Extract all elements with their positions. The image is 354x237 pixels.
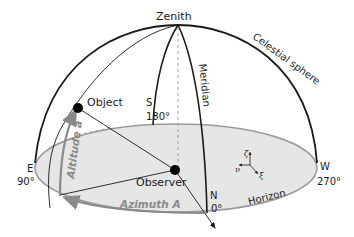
meridian-label: Meridian bbox=[197, 63, 212, 107]
diagram-canvas: ζ υ ξ Zenith Celestial sphere Meridian O… bbox=[0, 0, 354, 237]
observer-point bbox=[170, 165, 180, 175]
celestial-sphere-label: Celestial sphere bbox=[251, 31, 322, 87]
north-label: N bbox=[210, 190, 217, 201]
south-degree-label: 180° bbox=[146, 111, 170, 122]
west-degree-label: 270° bbox=[317, 176, 341, 187]
object-point bbox=[73, 103, 83, 113]
south-meridian-arc bbox=[153, 25, 178, 125]
axis-xi-label: ξ bbox=[259, 171, 264, 180]
south-label: S bbox=[146, 97, 152, 108]
zenith-label: Zenith bbox=[156, 10, 192, 23]
west-label: W bbox=[320, 161, 330, 172]
axis-zeta-label: ζ bbox=[244, 149, 249, 158]
east-degree-label: 90° bbox=[17, 176, 35, 187]
observer-label: Observer bbox=[136, 176, 187, 189]
north-degree-label: 0° bbox=[211, 203, 222, 214]
object-label: Object bbox=[87, 96, 124, 109]
east-label: E bbox=[27, 163, 33, 174]
celestial-sphere-diagram: ζ υ ξ Zenith Celestial sphere Meridian O… bbox=[0, 0, 354, 237]
azimuth-label: Azimuth A bbox=[119, 198, 181, 210]
axis-upsilon-label: υ bbox=[235, 165, 240, 174]
